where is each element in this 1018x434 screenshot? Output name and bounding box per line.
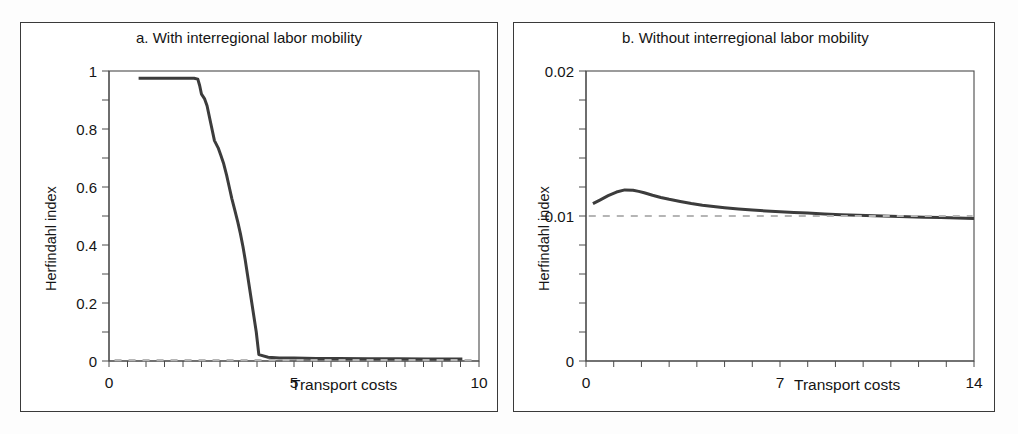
y-tick-label: 0.2 [76,295,97,312]
panel-a-y-axis-label: Herfindahl index [43,186,59,291]
data-line [593,190,974,219]
y-tick-label: 0 [566,353,574,370]
figure-root: 00.20.40.60.810510 a. With interregional… [0,0,1018,434]
panel-a-title: a. With interregional labor mobility [136,29,362,46]
y-tick-label: 0 [89,353,97,370]
y-tick-label: 0.4 [76,237,97,254]
panel-b-chart: 00.010.020714 [514,23,996,413]
panel-a-container: 00.20.40.60.810510 a. With interregional… [20,22,498,412]
y-tick-label: 0.8 [76,121,97,138]
x-tick-label: 0 [582,374,591,391]
panel-b-container: 00.010.020714 b. Without interregional l… [513,22,995,412]
y-tick-label: 0.02 [545,63,574,80]
x-tick-label: 0 [105,374,114,391]
plot-frame [109,71,479,361]
y-tick-label: 0.6 [76,179,97,196]
panel-a-chart: 00.20.40.60.810510 [21,23,499,413]
x-tick-label: 7 [776,374,785,391]
panel-a-x-axis-label: Transport costs [291,376,397,394]
panel-b-x-axis-label: Transport costs [794,376,900,394]
data-line [139,78,463,359]
x-tick-label: 10 [470,374,488,391]
panel-b-y-axis-label: Herfindahl index [536,186,552,291]
x-tick-label: 14 [965,374,983,391]
panel-b-title: b. Without interregional labor mobility [622,29,869,46]
y-tick-label: 1 [89,63,97,80]
